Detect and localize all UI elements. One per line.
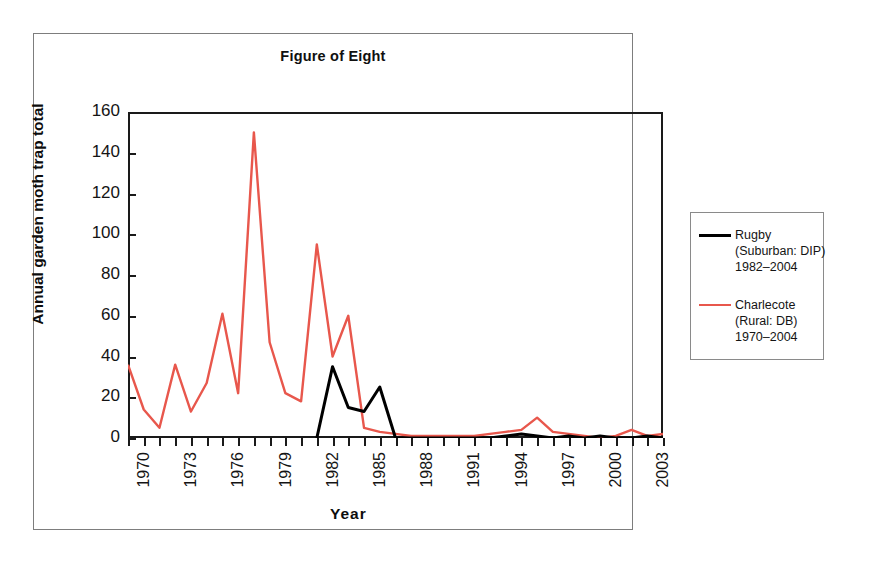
x-tick-mark [254, 438, 256, 446]
plot-lines [128, 112, 663, 438]
chart-title: Figure of Eight [33, 48, 633, 64]
y-axis-title: Annual garden moth trap total [29, 84, 47, 344]
x-tick-mark [380, 438, 382, 446]
x-tick-mark [270, 438, 272, 446]
x-tick-label: 1991 [465, 452, 483, 488]
x-tick-label: 1982 [324, 452, 342, 488]
x-tick-mark [411, 438, 413, 446]
x-tick-mark [144, 438, 146, 446]
y-tick-label: 0 [60, 427, 120, 447]
y-tick-label-group: 020406080100120140160 [54, 112, 120, 438]
x-tick-label: 1979 [277, 452, 295, 488]
x-tick-mark [285, 438, 287, 446]
x-tick-label: 1970 [135, 452, 153, 488]
chart-page: Figure of Eight Annual garden moth trap … [0, 0, 870, 567]
x-tick-mark [191, 438, 193, 446]
y-tick-mark [128, 316, 136, 318]
x-tick-label: 1988 [418, 452, 436, 488]
x-tick-mark [553, 438, 555, 446]
x-tick-mark [490, 438, 492, 446]
x-tick-mark [521, 438, 523, 446]
legend-line-swatch-icon [699, 304, 731, 306]
x-tick-mark [396, 438, 398, 446]
x-tick-label: 1976 [229, 452, 247, 488]
y-tick-label: 80 [60, 264, 120, 284]
legend-label: Charlecote(Rural: DB)1970–2004 [735, 297, 798, 345]
legend: Rugby(Suburban: DIP)1982–2004Charlecote(… [690, 212, 824, 360]
y-tick-label: 20 [60, 386, 120, 406]
legend-label-line: 1982–2004 [735, 259, 825, 275]
x-tick-mark [427, 438, 429, 446]
x-axis-title: Year [330, 505, 367, 523]
x-tick-mark [238, 438, 240, 446]
x-tick-mark [663, 438, 665, 446]
x-tick-label: 1973 [182, 452, 200, 488]
x-tick-label: 2000 [607, 452, 625, 488]
y-tick-mark [128, 397, 136, 399]
y-tick-label: 140 [60, 142, 120, 162]
legend-label-line: (Suburban: DIP) [735, 243, 825, 259]
x-tick-mark [647, 438, 649, 446]
x-tick-mark [364, 438, 366, 446]
y-tick-mark [128, 112, 136, 114]
legend-label-line: 1970–2004 [735, 329, 798, 345]
x-tick-mark [128, 438, 130, 446]
x-tick-mark [175, 438, 177, 446]
x-tick-mark [537, 438, 539, 446]
x-tick-mark [317, 438, 319, 446]
y-tick-label: 120 [60, 183, 120, 203]
y-tick-mark [128, 275, 136, 277]
x-tick-label: 2003 [654, 452, 672, 488]
x-tick-label: 1994 [513, 452, 531, 488]
y-tick-label: 100 [60, 223, 120, 243]
legend-label-line: (Rural: DB) [735, 313, 798, 329]
x-tick-mark [616, 438, 618, 446]
x-tick-mark [506, 438, 508, 446]
y-tick-mark [128, 194, 136, 196]
x-tick-mark [600, 438, 602, 446]
x-tick-mark [458, 438, 460, 446]
x-tick-mark [443, 438, 445, 446]
y-tick-mark [128, 153, 136, 155]
series-line-charlecote [128, 132, 663, 438]
legend-label-line: Charlecote [735, 297, 798, 313]
x-tick-mark [569, 438, 571, 446]
legend-line-swatch-icon [699, 234, 731, 237]
legend-label: Rugby(Suburban: DIP)1982–2004 [735, 227, 825, 275]
x-tick-mark [348, 438, 350, 446]
x-tick-mark [222, 438, 224, 446]
y-tick-label: 60 [60, 305, 120, 325]
y-tick-mark [128, 357, 136, 359]
x-tick-label: 1985 [371, 452, 389, 488]
series-line-rugby [317, 367, 663, 438]
x-tick-mark [333, 438, 335, 446]
x-tick-label: 1997 [560, 452, 578, 488]
y-tick-mark [128, 234, 136, 236]
x-tick-mark [584, 438, 586, 446]
y-tick-label: 40 [60, 346, 120, 366]
x-tick-mark [301, 438, 303, 446]
x-tick-mark [207, 438, 209, 446]
y-tick-label: 160 [60, 101, 120, 121]
legend-label-line: Rugby [735, 227, 825, 243]
x-tick-mark [159, 438, 161, 446]
x-tick-mark [632, 438, 634, 446]
x-tick-mark [474, 438, 476, 446]
